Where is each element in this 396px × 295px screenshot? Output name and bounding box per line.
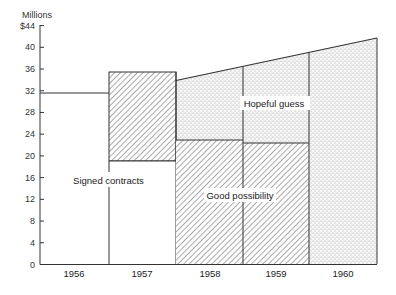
chart: 0481216202428323640$44 Millions 1956 195…	[0, 0, 396, 295]
annotation-signed-contracts: Signed contracts	[73, 175, 144, 186]
y-tick-label: 12	[25, 194, 35, 204]
x-label-1957: 1957	[131, 268, 152, 279]
y-tick-label: 24	[25, 129, 35, 139]
y-tick-label: 20	[25, 151, 35, 161]
y-tick-label: 16	[25, 173, 35, 183]
y-tick-label: 8	[30, 216, 35, 226]
x-label-1958: 1958	[199, 268, 220, 279]
y-tick-label: 40	[25, 42, 35, 52]
y-tick-label: $44	[20, 21, 35, 31]
annotation-hopeful-guess: Hopeful guess	[244, 98, 305, 109]
annotation-good-possibility: Good possibility	[206, 190, 273, 201]
bar-1957-good-possibility	[109, 72, 176, 161]
bar-1959-good-possibility	[243, 143, 309, 264]
y-tick-label: 4	[30, 238, 35, 248]
y-tick-label: 32	[25, 86, 35, 96]
x-label-1960: 1960	[332, 268, 353, 279]
x-label-1956: 1956	[63, 268, 84, 279]
y-axis-unit-label: Millions	[22, 10, 53, 20]
y-tick-label: 0	[30, 260, 35, 270]
x-label-1959: 1959	[265, 268, 286, 279]
y-tick-label: 36	[25, 64, 35, 74]
y-tick-label: 28	[25, 107, 35, 117]
